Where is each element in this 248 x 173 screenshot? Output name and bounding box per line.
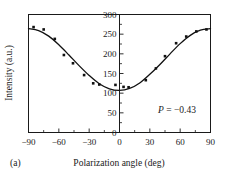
data-point (32, 26, 35, 29)
annotation-value: −0.43 (174, 105, 196, 115)
x-tick-label: 30 (145, 137, 155, 147)
annotation-equals: = (164, 105, 174, 115)
x-tick-label: 60 (176, 137, 186, 147)
data-point (205, 28, 208, 31)
figure-panel-a: −90−60−300306090 050100150200250300 Pola… (0, 0, 248, 173)
x-tick-label: −30 (82, 137, 97, 147)
polarization-chart: −90−60−300306090 050100150200250300 Pola… (0, 0, 248, 173)
data-point (83, 74, 86, 77)
data-point (144, 79, 147, 82)
x-tick-label: −60 (52, 137, 67, 147)
data-point (114, 84, 117, 87)
data-point (185, 35, 188, 38)
x-tick-label: −90 (21, 137, 36, 147)
y-tick-label: 250 (103, 29, 117, 39)
data-point (122, 86, 125, 89)
panel-label: (a) (10, 158, 21, 169)
data-point (98, 83, 101, 86)
y-axis-title: Intensity (a.u.) (4, 45, 15, 101)
y-axis-major-ticks (120, 15, 124, 133)
x-tick-label: 90 (206, 137, 216, 147)
x-tick-label: 0 (117, 137, 122, 147)
data-point (155, 67, 158, 70)
x-axis-title: Polarization angle (deg) (73, 158, 164, 169)
data-point (72, 62, 75, 65)
x-axis-tick-labels: −90−60−300306090 (21, 137, 215, 147)
data-point (195, 30, 198, 33)
data-point (92, 82, 95, 85)
data-point-markers (32, 26, 208, 89)
y-tick-label: 300 (103, 10, 117, 20)
polarization-annotation: P = −0.43 (157, 105, 196, 115)
y-axis-tick-labels: 050100150200250300 (103, 10, 117, 138)
data-point (63, 54, 66, 57)
data-point (164, 55, 167, 58)
y-tick-label: 200 (103, 49, 117, 59)
x-axis-major-ticks (29, 129, 211, 133)
data-point (42, 28, 45, 31)
data-point (175, 42, 178, 45)
y-tick-label: 0 (112, 128, 117, 138)
data-point (53, 38, 56, 41)
y-tick-label: 150 (103, 69, 117, 79)
data-point (127, 86, 130, 89)
y-tick-label: 50 (108, 108, 118, 118)
